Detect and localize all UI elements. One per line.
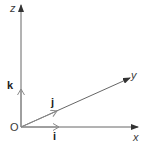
- y-axis-label: y: [130, 69, 138, 81]
- x-axis-label: x: [132, 131, 139, 143]
- origin-label: O: [10, 121, 19, 133]
- j-vector-arrow: [21, 111, 57, 127]
- i-vector-label: i: [53, 130, 56, 142]
- j-vector-label: j: [50, 96, 54, 108]
- z-axis-label: z: [9, 2, 16, 14]
- k-vector-label: k: [7, 79, 14, 91]
- coordinate-diagram: z x y O k j i: [0, 0, 142, 145]
